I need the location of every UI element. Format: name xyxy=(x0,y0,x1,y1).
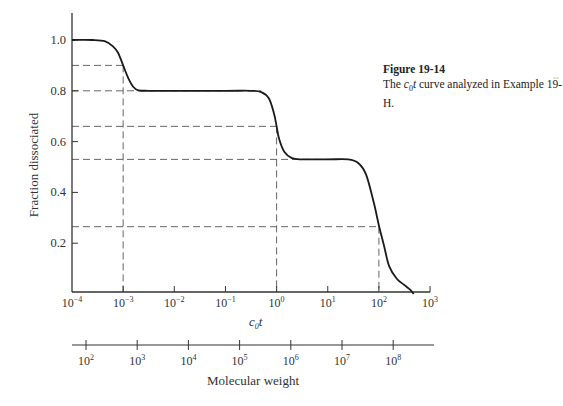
x-axis-label: c0t xyxy=(249,314,263,331)
x-tick-label: 101 xyxy=(320,295,336,310)
secondary-tick-label: 108 xyxy=(385,353,401,368)
y-tick-label: 0.4 xyxy=(50,185,66,199)
y-tick-label: 0.2 xyxy=(50,236,66,250)
y-tick-label: 1.0 xyxy=(50,33,66,47)
x-tick-label: 10−2 xyxy=(164,295,185,310)
molecular-weight-axis: 102103104105106107108 xyxy=(72,340,434,368)
secondary-axis-label: Molecular weight xyxy=(207,373,299,388)
secondary-tick-label: 103 xyxy=(129,353,145,368)
y-tick-label: 0.6 xyxy=(50,135,66,149)
secondary-tick-label: 107 xyxy=(334,353,350,368)
page-edge-mark xyxy=(553,77,559,79)
x-tick-label: 10−1 xyxy=(215,295,236,310)
secondary-tick-label: 106 xyxy=(283,353,299,368)
x-tick-label: 10−3 xyxy=(113,295,134,310)
y-tick-label: 0.8 xyxy=(50,84,66,98)
dashed-reference-lines xyxy=(72,65,379,292)
secondary-tick-label: 102 xyxy=(78,353,94,368)
x-tick-label: 102 xyxy=(371,295,387,310)
tick-labels: 0.20.40.60.81.010−410−310−210−1100101102… xyxy=(50,33,438,310)
caption-text: The c0t curve analyzed in Example 19-H. xyxy=(383,77,563,111)
figure-label: Figure 19-14 xyxy=(383,62,563,77)
x-tick-label: 100 xyxy=(269,295,285,310)
y-axis-label: Fraction dissociated xyxy=(26,112,41,217)
axes xyxy=(72,13,430,292)
x-tick-label: 10−4 xyxy=(62,295,83,310)
x-tick-label: 103 xyxy=(422,295,438,310)
figure-caption: Figure 19-14 The c0t curve analyzed in E… xyxy=(383,62,563,111)
secondary-tick-label: 104 xyxy=(180,353,196,368)
secondary-tick-label: 105 xyxy=(232,353,248,368)
cot-curve-chart: 0.20.40.60.81.010−410−310−210−1100101102… xyxy=(0,0,563,406)
